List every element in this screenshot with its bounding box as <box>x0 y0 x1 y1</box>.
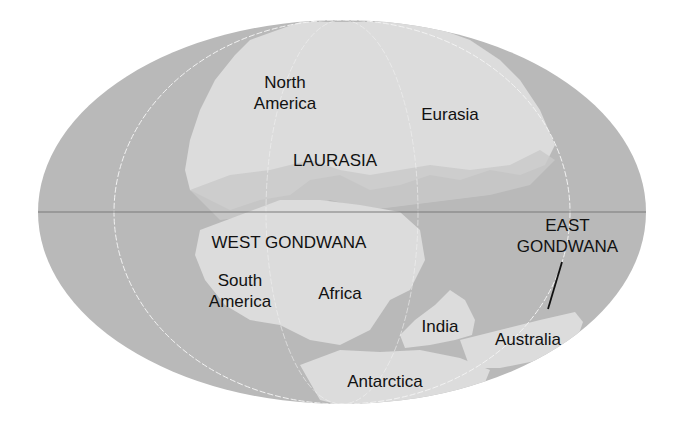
label-south-america: South America <box>196 270 284 312</box>
label-laurasia: LAURASIA <box>280 150 390 171</box>
label-africa: Africa <box>305 283 375 304</box>
label-west-gondwana: WEST GONDWANA <box>198 232 380 253</box>
world-map <box>0 0 677 422</box>
label-east-gondwana: EAST GONDWANA <box>505 215 630 257</box>
label-north-america: North America <box>240 72 330 114</box>
label-australia: Australia <box>483 329 573 350</box>
label-eurasia: Eurasia <box>410 104 490 125</box>
label-antarctica: Antarctica <box>335 371 435 392</box>
label-india: India <box>410 316 470 337</box>
